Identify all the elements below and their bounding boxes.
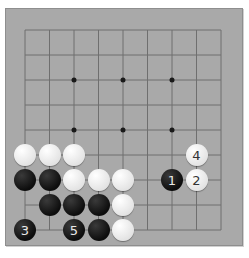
black-stone[interactable] — [88, 194, 110, 216]
black-stone[interactable]: 3 — [14, 219, 36, 241]
white-stone[interactable] — [112, 169, 134, 191]
move-number: 1 — [168, 173, 176, 188]
black-stone[interactable]: 5 — [63, 219, 85, 241]
star-point — [121, 78, 126, 83]
star-point — [170, 128, 175, 133]
white-stone[interactable] — [88, 169, 110, 191]
black-stone[interactable] — [39, 194, 61, 216]
move-number: 4 — [192, 148, 200, 163]
star-point — [170, 78, 175, 83]
black-stone[interactable] — [39, 169, 61, 191]
black-stone[interactable]: 1 — [161, 169, 183, 191]
star-point — [72, 128, 77, 133]
white-stone[interactable] — [14, 144, 36, 166]
white-stone[interactable] — [39, 144, 61, 166]
black-stone[interactable] — [88, 219, 110, 241]
move-number: 3 — [21, 223, 29, 238]
black-stone[interactable] — [63, 194, 85, 216]
white-stone[interactable] — [112, 194, 134, 216]
star-point — [121, 128, 126, 133]
white-stone[interactable] — [63, 144, 85, 166]
black-stone[interactable] — [14, 169, 36, 191]
white-stone[interactable]: 2 — [186, 169, 208, 191]
white-stone[interactable] — [112, 219, 134, 241]
move-number: 5 — [70, 223, 78, 238]
move-number: 2 — [192, 173, 200, 188]
white-stone[interactable] — [63, 169, 85, 191]
star-point — [72, 78, 77, 83]
white-stone[interactable]: 4 — [186, 144, 208, 166]
